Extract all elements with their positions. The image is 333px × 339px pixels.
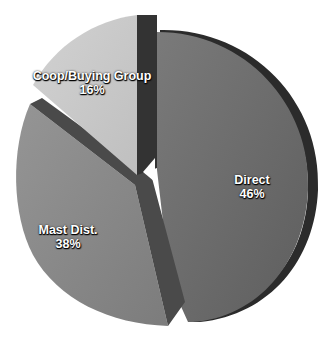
label-mast-dist-name: Mast Dist. xyxy=(38,223,97,237)
label-direct-pct: 46% xyxy=(234,187,269,201)
label-mast-dist-pct: 38% xyxy=(38,237,97,251)
pie-chart: Coop/Buying Group 16% Direct 46% Mast Di… xyxy=(0,0,333,339)
label-direct: Direct 46% xyxy=(234,173,269,201)
label-coop-pct: 16% xyxy=(33,83,152,97)
direct-slice xyxy=(157,32,308,322)
label-direct-name: Direct xyxy=(234,173,269,187)
label-mast-dist: Mast Dist. 38% xyxy=(38,223,97,251)
label-coop-name: Coop/Buying Group xyxy=(33,69,152,83)
label-coop: Coop/Buying Group 16% xyxy=(33,69,152,97)
